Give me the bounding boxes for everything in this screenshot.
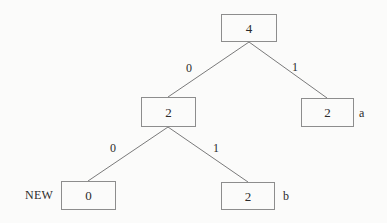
tree-edge-internal-left-to-leaf-b: [168, 127, 248, 182]
tree-node-leaf-b[interactable]: 2: [221, 182, 275, 210]
annotation-new-marker: NEW: [25, 189, 53, 201]
tree-edge-root-to-leaf-a: [249, 42, 327, 98]
huffman-tree-diagram: 42202 0101 ab NEW: [0, 0, 387, 223]
tree-edge-root-to-internal-left: [168, 42, 249, 97]
tree-node-leaf-a[interactable]: 2: [301, 98, 354, 127]
edge-label-root-to-leaf-a: 1: [292, 61, 298, 73]
tree-node-leaf-new[interactable]: 0: [61, 181, 116, 210]
tree-node-value-leaf-b: 2: [245, 190, 252, 203]
tree-node-internal-left[interactable]: 2: [141, 97, 196, 127]
side-label-leaf-b-symbol: b: [283, 190, 289, 202]
tree-node-value-root: 4: [246, 22, 253, 35]
tree-node-value-leaf-a: 2: [324, 106, 331, 119]
tree-edge-internal-left-to-leaf-new: [88, 127, 168, 181]
edge-label-root-to-internal-left: 0: [186, 62, 192, 74]
edge-label-internal-left-to-leaf-b: 1: [213, 142, 219, 154]
edge-label-internal-left-to-leaf-new: 0: [110, 142, 116, 154]
tree-node-root[interactable]: 4: [221, 14, 277, 42]
side-label-leaf-a-symbol: a: [359, 107, 364, 119]
tree-node-value-internal-left: 2: [165, 106, 172, 119]
tree-node-value-leaf-new: 0: [85, 189, 92, 202]
